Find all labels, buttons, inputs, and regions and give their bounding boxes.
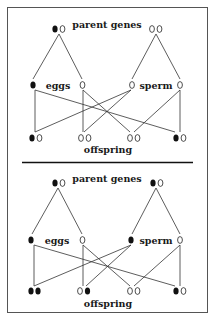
- offspring-genotype-1: [28, 287, 40, 294]
- fertilization-lines: [35, 90, 180, 132]
- recessive-allele-icon: [60, 180, 65, 187]
- egg-dominant-allele-icon: [28, 236, 33, 243]
- recessive-allele-icon: [181, 288, 186, 295]
- offspring-genotype-2: [79, 135, 91, 142]
- parent-female-genotype: [52, 179, 65, 186]
- offspring-genotype-4: [173, 134, 186, 141]
- dominant-allele-icon: [173, 134, 178, 141]
- sperm-recessive-allele-icon: [130, 82, 135, 89]
- recessive-allele-icon: [60, 26, 65, 33]
- offspring-genotype-1: [29, 134, 41, 141]
- parent-male-genotype: [150, 26, 162, 33]
- recessive-allele-icon: [79, 135, 84, 142]
- recessive-allele-icon: [157, 26, 162, 33]
- recessive-allele-icon: [86, 135, 91, 142]
- fertilization-lines: [34, 245, 180, 286]
- dominant-allele-icon: [173, 287, 178, 294]
- segregation-lines: [32, 188, 180, 234]
- panel-top: parent genes eggs sperm offspring: [29, 19, 186, 155]
- label-sperm: sperm: [139, 235, 172, 246]
- offspring-genotype-4: [173, 287, 186, 294]
- label-parent-genes: parent genes: [72, 173, 141, 184]
- recessive-allele-icon: [135, 288, 140, 295]
- sperm-dominant-allele-icon: [128, 236, 133, 243]
- segregation-lines: [33, 34, 180, 79]
- label-parent-genes: parent genes: [72, 19, 141, 30]
- dominant-allele-icon: [150, 179, 155, 186]
- offspring-genotype-2: [78, 287, 91, 294]
- dominant-allele-icon: [28, 287, 33, 294]
- dominant-allele-icon: [35, 287, 40, 294]
- label-eggs: eggs: [46, 80, 71, 91]
- sperm-recessive-allele-icon: [178, 237, 183, 244]
- parent-male-genotype: [150, 179, 163, 186]
- panel-bottom: parent genes eggs sperm offspring: [28, 173, 186, 309]
- recessive-allele-icon: [78, 288, 83, 295]
- label-sperm: sperm: [139, 80, 172, 91]
- offspring-genotype-3: [128, 135, 140, 142]
- dominant-allele-icon: [29, 134, 34, 141]
- egg-recessive-allele-icon: [80, 82, 85, 89]
- dominant-allele-icon: [85, 287, 90, 294]
- recessive-allele-icon: [128, 135, 133, 142]
- punnett-cross-diagram: parent genes eggs sperm offspring: [0, 0, 215, 320]
- label-eggs: eggs: [45, 235, 70, 246]
- parent-female-genotype: [52, 25, 65, 32]
- dominant-allele-icon: [52, 179, 57, 186]
- label-offspring: offspring: [84, 298, 133, 309]
- recessive-allele-icon: [135, 135, 140, 142]
- recessive-allele-icon: [150, 26, 155, 33]
- dominant-allele-icon: [52, 25, 57, 32]
- recessive-allele-icon: [37, 135, 42, 142]
- egg-dominant-allele-icon: [30, 81, 35, 88]
- label-offspring: offspring: [84, 144, 133, 155]
- egg-recessive-allele-icon: [80, 237, 85, 244]
- sperm-recessive-allele-icon: [178, 82, 183, 89]
- recessive-allele-icon: [181, 135, 186, 142]
- offspring-genotype-3: [128, 288, 140, 295]
- recessive-allele-icon: [128, 288, 133, 295]
- recessive-allele-icon: [158, 180, 163, 187]
